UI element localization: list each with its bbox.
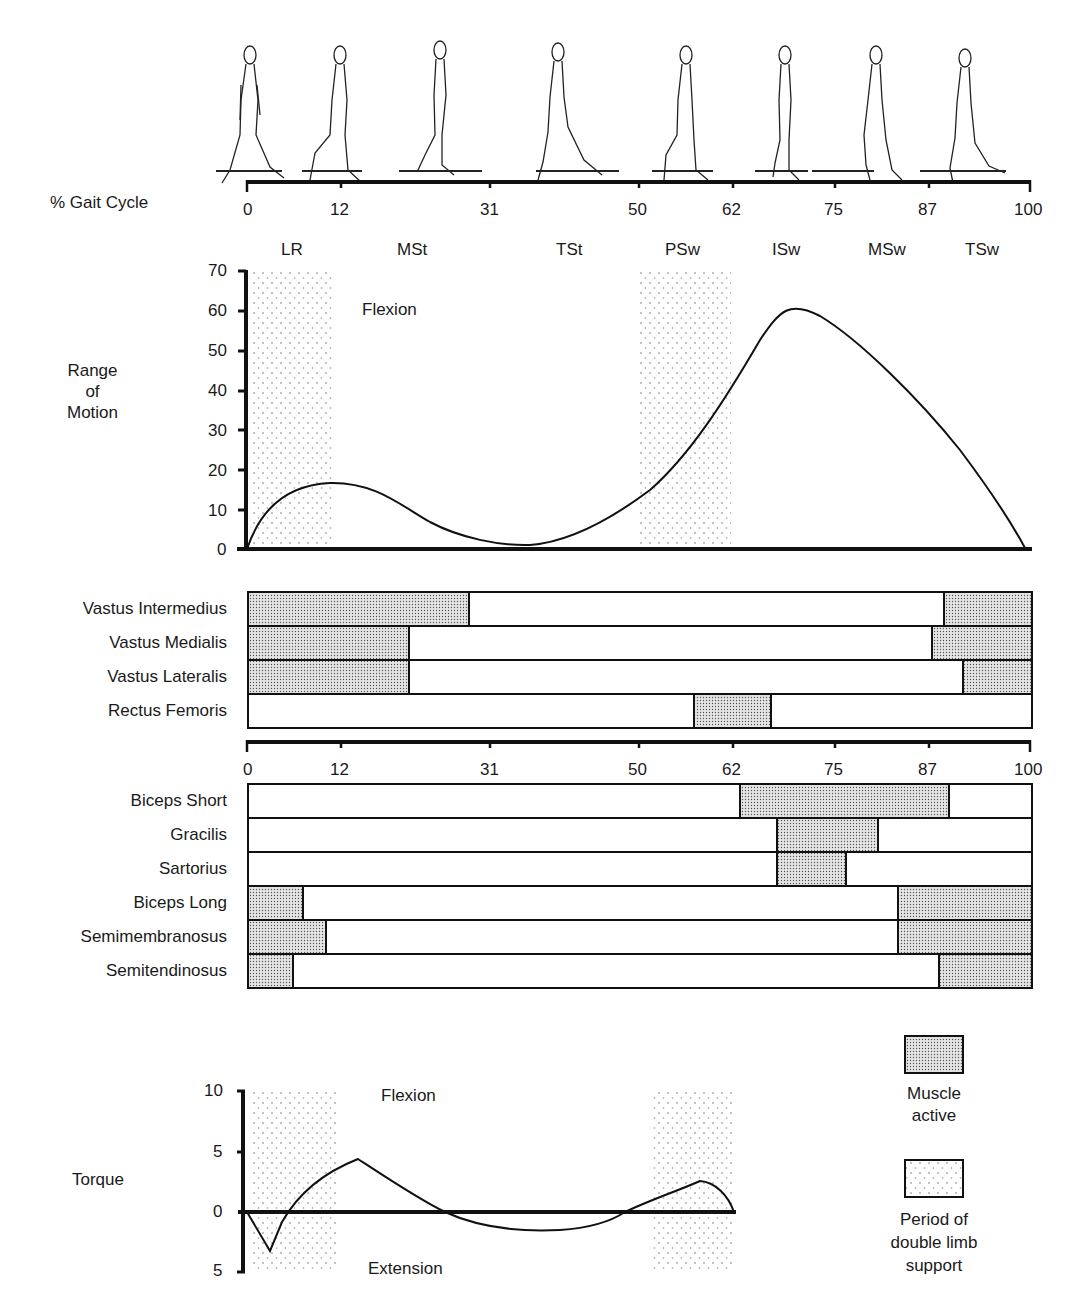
tick-label: 75 <box>824 760 843 780</box>
ytick-label: 20 <box>208 461 227 481</box>
torque-extension-annotation: Extension <box>368 1259 443 1279</box>
muscle-label: Rectus Femoris <box>0 701 227 721</box>
walker-figure-icon <box>950 49 1005 183</box>
muscle-label: Semitendinosus <box>0 961 227 981</box>
double-support-shading <box>652 1090 734 1270</box>
ytick-label: 10 <box>208 501 227 521</box>
tick-label: 50 <box>628 760 647 780</box>
walking-figures <box>216 41 1006 183</box>
ytick-label: 50 <box>208 341 227 361</box>
muscle-label: Semimembranosus <box>0 927 227 947</box>
tick-label: 0 <box>243 760 252 780</box>
walker-figure-icon <box>310 46 362 183</box>
tick-label: 0 <box>243 200 252 220</box>
muscle-label: Vastus Intermedius <box>0 599 227 619</box>
ytick-label: 60 <box>208 301 227 321</box>
walker-figure-icon <box>864 46 902 180</box>
phase-label: MSt <box>397 240 427 260</box>
muscle-label: Gracilis <box>0 825 227 845</box>
tick-label: 31 <box>480 200 499 220</box>
muscle-label: Vastus Lateralis <box>0 667 227 687</box>
muscle-bars-upper <box>248 592 1032 728</box>
rom-ylabel: Range of Motion <box>50 360 135 423</box>
tick-label: 100 <box>1014 760 1042 780</box>
walker-figure-icon <box>222 46 284 183</box>
walker-figure-icon <box>773 46 799 180</box>
tick-label: 62 <box>722 200 741 220</box>
torque-flexion-annotation: Flexion <box>381 1086 436 1106</box>
legend-muscle-active-swatch <box>905 1036 963 1073</box>
tick-label: 12 <box>330 760 349 780</box>
tick-label: 87 <box>918 760 937 780</box>
walker-figure-icon <box>538 43 602 180</box>
rom-chart <box>237 270 1032 550</box>
ytick-label: 5 <box>213 1142 222 1162</box>
muscle-label: Biceps Long <box>0 893 227 913</box>
ytick-label: 0 <box>213 1202 222 1222</box>
torque-chart <box>237 1090 736 1272</box>
ytick-label: 30 <box>208 421 227 441</box>
rom-flexion-annotation: Flexion <box>362 300 417 320</box>
phase-label: TSt <box>556 240 582 260</box>
tick-label: 87 <box>918 200 937 220</box>
double-support-shading <box>250 272 334 548</box>
phase-label: ISw <box>772 240 800 260</box>
phase-label: MSw <box>868 240 906 260</box>
ytick-label: 10 <box>204 1081 223 1101</box>
phase-label: LR <box>281 240 303 260</box>
walker-figure-icon <box>418 41 454 175</box>
walker-figure-icon <box>664 46 708 180</box>
ytick-label: 5 <box>213 1261 222 1281</box>
muscle-label: Sartorius <box>0 859 227 879</box>
tick-label: 12 <box>330 200 349 220</box>
gait-axis-top <box>247 180 1030 192</box>
ytick-label: 40 <box>208 381 227 401</box>
legend-double-support-label: Period of double limb support <box>869 1208 999 1277</box>
phase-label: TSw <box>965 240 999 260</box>
tick-label: 100 <box>1014 200 1042 220</box>
gait-axis-label: % Gait Cycle <box>50 193 148 213</box>
gait-axis-middle <box>247 740 1030 752</box>
tick-label: 75 <box>824 200 843 220</box>
muscle-label: Biceps Short <box>0 791 227 811</box>
ytick-label: 0 <box>217 540 226 560</box>
muscle-bars-lower <box>248 784 1032 988</box>
rom-curve <box>247 308 1025 549</box>
double-support-shading <box>250 1090 338 1270</box>
tick-label: 50 <box>628 200 647 220</box>
tick-label: 62 <box>722 760 741 780</box>
legend-double-support-swatch <box>905 1160 963 1197</box>
tick-label: 31 <box>480 760 499 780</box>
muscle-label: Vastus Medialis <box>0 633 227 653</box>
ytick-label: 70 <box>208 261 227 281</box>
legend-muscle-active-label: Muscle active <box>884 1083 984 1127</box>
torque-ylabel: Torque <box>72 1170 124 1190</box>
phase-label: PSw <box>665 240 700 260</box>
